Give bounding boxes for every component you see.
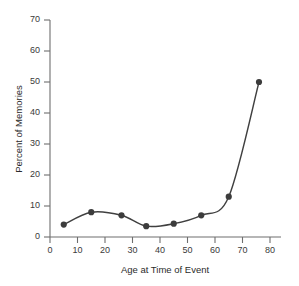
y-tick-label-0: 0 xyxy=(35,231,40,241)
y-tick-label-30: 30 xyxy=(30,138,40,148)
chart-background xyxy=(0,0,299,286)
x-tick-label-80: 80 xyxy=(265,245,275,255)
y-tick-label-60: 60 xyxy=(30,45,40,55)
data-point xyxy=(118,212,124,218)
y-tick-label-40: 40 xyxy=(30,107,40,117)
data-point xyxy=(226,194,232,200)
y-axis-title: Percent of Memories xyxy=(13,85,24,173)
x-tick-label-0: 0 xyxy=(47,245,52,255)
y-tick-label-50: 50 xyxy=(30,76,40,86)
x-tick-label-10: 10 xyxy=(72,245,82,255)
data-point xyxy=(198,212,204,218)
data-point xyxy=(88,209,94,215)
y-tick-label-10: 10 xyxy=(30,200,40,210)
x-axis-tick-labels: 0 10 20 30 40 50 60 70 80 xyxy=(47,245,275,255)
data-point xyxy=(256,79,262,85)
x-axis-title: Age at Time of Event xyxy=(121,264,210,275)
x-tick-label-40: 40 xyxy=(155,245,165,255)
data-point xyxy=(61,222,67,228)
x-tick-label-20: 20 xyxy=(100,245,110,255)
y-tick-label-70: 70 xyxy=(30,14,40,24)
memory-percent-line-chart: 70 60 50 40 30 20 10 0 Percent of Memori… xyxy=(0,0,299,286)
x-tick-label-70: 70 xyxy=(237,245,247,255)
x-tick-label-30: 30 xyxy=(127,245,137,255)
x-tick-label-50: 50 xyxy=(182,245,192,255)
data-point xyxy=(143,223,149,229)
y-tick-label-20: 20 xyxy=(30,169,40,179)
x-tick-label-60: 60 xyxy=(210,245,220,255)
data-point xyxy=(171,221,177,227)
